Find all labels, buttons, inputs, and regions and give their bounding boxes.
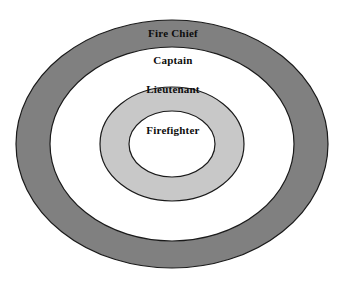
ring-label-lieutenant: Lieutenant (0, 83, 346, 95)
rank-hierarchy-diagram: Fire Chief Captain Lieutenant Firefighte… (0, 0, 346, 281)
concentric-ellipses-graphic (0, 0, 346, 281)
ring-label-firefighter: Firefighter (0, 124, 346, 136)
ring-label-fire-chief: Fire Chief (0, 27, 346, 39)
ring-label-captain: Captain (0, 54, 346, 66)
ring-ellipse-firefighter (129, 111, 215, 177)
